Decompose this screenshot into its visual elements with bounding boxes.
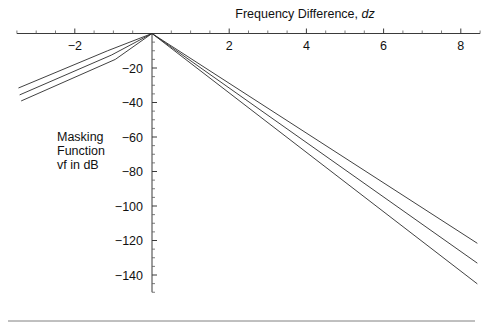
plot-generated-content: −22468−20−40−60−80−100−120−140Frequency … xyxy=(8,7,480,321)
chart-title: Frequency Difference, dz xyxy=(235,7,375,21)
x-tick-label: 6 xyxy=(380,39,387,53)
x-tick-label: 2 xyxy=(226,39,233,53)
y-tick-label: −140 xyxy=(115,269,143,283)
y-tick-label: −40 xyxy=(122,96,143,110)
y-tick-label: −80 xyxy=(122,165,143,179)
x-tick-label: 4 xyxy=(303,39,310,53)
x-tick-label: −2 xyxy=(68,39,82,53)
y-axis-label: MaskingFunctionvf in dB xyxy=(57,130,105,172)
x-tick-label: 8 xyxy=(457,39,464,53)
y-tick-label: −20 xyxy=(122,62,143,76)
y-tick-label: −100 xyxy=(115,200,143,214)
y-tick-label: −60 xyxy=(122,131,143,145)
masking-function-plot: −22468−20−40−60−80−100−120−140Frequency … xyxy=(0,0,483,326)
y-tick-label: −120 xyxy=(115,234,143,248)
chart-figure: −22468−20−40−60−80−100−120−140Frequency … xyxy=(0,0,483,326)
